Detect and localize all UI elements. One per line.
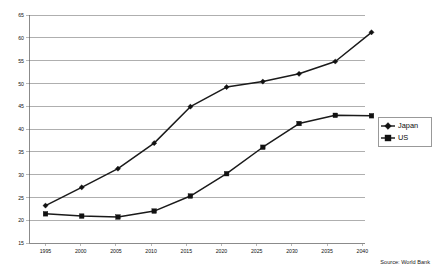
data-point-square bbox=[297, 121, 302, 126]
x-tick-label: 2025 bbox=[251, 248, 263, 254]
data-point-square bbox=[188, 194, 193, 199]
x-tick-label: 2010 bbox=[145, 248, 157, 254]
y-tick-label: 60 bbox=[18, 35, 24, 41]
y-tick-label: 45 bbox=[18, 103, 24, 109]
legend-label-japan: Japan bbox=[398, 121, 418, 130]
x-axis-labels: 1995 2000 2005 2010 2015 2020 2025 2030 … bbox=[40, 248, 368, 254]
y-tick-label: 30 bbox=[18, 172, 24, 178]
y-tick-label: 40 bbox=[18, 126, 24, 132]
line-chart: 65 60 55 50 45 40 35 30 25 20 15 bbox=[0, 0, 435, 277]
series-line-japan bbox=[46, 32, 372, 205]
y-axis-labels: 65 60 55 50 45 40 35 30 25 20 15 bbox=[18, 12, 24, 246]
data-point-square bbox=[333, 113, 338, 118]
data-point-square bbox=[43, 212, 48, 217]
x-tick-label: 2015 bbox=[181, 248, 193, 254]
y-tick-label: 20 bbox=[18, 217, 24, 223]
x-tick-marks bbox=[46, 243, 363, 246]
data-point-diamond bbox=[79, 185, 84, 190]
source-note: Source: World Bank bbox=[380, 259, 430, 265]
x-tick-label: 2005 bbox=[110, 248, 122, 254]
data-point-diamond bbox=[43, 203, 48, 208]
data-point-square bbox=[261, 145, 266, 150]
data-point-diamond bbox=[296, 71, 301, 76]
x-tick-label: 2035 bbox=[321, 248, 333, 254]
x-tick-label: 2040 bbox=[357, 248, 369, 254]
y-tick-label: 35 bbox=[18, 149, 24, 155]
y-tick-label: 50 bbox=[18, 81, 24, 87]
chart-container: 65 60 55 50 45 40 35 30 25 20 15 bbox=[0, 0, 435, 277]
series-japan bbox=[43, 30, 374, 208]
legend: Japan US bbox=[378, 117, 431, 146]
y-tick-label: 25 bbox=[18, 195, 24, 201]
square-marker-icon bbox=[385, 135, 391, 141]
x-tick-label: 1995 bbox=[40, 248, 52, 254]
gridlines bbox=[29, 15, 365, 220]
y-tick-label: 65 bbox=[18, 12, 24, 18]
data-point-square bbox=[79, 214, 84, 219]
x-tick-label: 2030 bbox=[286, 248, 298, 254]
y-tick-marks bbox=[26, 15, 29, 243]
data-point-square bbox=[116, 215, 121, 220]
x-tick-label: 2000 bbox=[75, 248, 87, 254]
data-point-square bbox=[224, 171, 229, 176]
y-tick-label: 55 bbox=[18, 58, 24, 64]
data-point-square bbox=[369, 113, 374, 118]
y-tick-label: 15 bbox=[18, 240, 24, 246]
data-point-square bbox=[152, 209, 157, 214]
series-line-us bbox=[46, 115, 372, 217]
x-tick-label: 2020 bbox=[216, 248, 228, 254]
legend-label-us: US bbox=[398, 133, 408, 142]
